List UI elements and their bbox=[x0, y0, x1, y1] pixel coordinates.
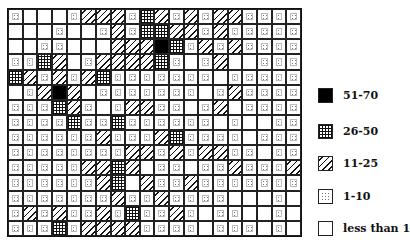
grid-cell bbox=[169, 221, 184, 236]
grid-cell bbox=[8, 175, 23, 190]
grid-cell bbox=[169, 39, 184, 54]
grid-cell bbox=[213, 221, 228, 236]
grid-cell bbox=[8, 39, 23, 54]
grid-cell bbox=[111, 39, 126, 54]
grid-cell bbox=[96, 115, 111, 130]
grid-cell bbox=[228, 9, 243, 24]
grid-cell bbox=[228, 160, 243, 175]
grid-cell bbox=[37, 85, 52, 100]
grid-cell bbox=[242, 85, 257, 100]
grid-cell bbox=[8, 145, 23, 160]
grid-cell bbox=[242, 160, 257, 175]
grid-cell bbox=[37, 39, 52, 54]
grid-cell bbox=[272, 145, 287, 160]
grid-cell bbox=[154, 85, 169, 100]
grid-cell bbox=[154, 9, 169, 24]
grid-cell bbox=[111, 160, 126, 175]
grid-cell bbox=[154, 191, 169, 206]
grid-cell bbox=[52, 175, 67, 190]
grid-cell bbox=[154, 39, 169, 54]
grid-cell bbox=[154, 54, 169, 69]
grid-cell bbox=[81, 70, 96, 85]
grid-cell bbox=[228, 175, 243, 190]
grid-cell bbox=[184, 191, 199, 206]
grid-cell bbox=[81, 24, 96, 39]
grid-cell bbox=[140, 70, 155, 85]
grid-cell bbox=[8, 130, 23, 145]
grid-cell bbox=[272, 100, 287, 115]
grid-cell bbox=[169, 191, 184, 206]
grid-cell bbox=[242, 24, 257, 39]
grid-cell bbox=[198, 24, 213, 39]
grid-cell bbox=[257, 191, 272, 206]
grid-cell bbox=[272, 206, 287, 221]
grid-cell bbox=[198, 206, 213, 221]
grid-cell bbox=[213, 70, 228, 85]
grid-cell bbox=[23, 221, 38, 236]
grid-cell bbox=[125, 160, 140, 175]
grid-cell bbox=[67, 130, 82, 145]
grid-cell bbox=[23, 9, 38, 24]
grid-cell bbox=[242, 54, 257, 69]
grid-cell bbox=[272, 115, 287, 130]
grid-cell bbox=[52, 115, 67, 130]
grid-cell bbox=[257, 70, 272, 85]
grid-cell bbox=[140, 206, 155, 221]
grid-cell bbox=[286, 24, 301, 39]
grid-cell bbox=[96, 70, 111, 85]
grid-cell bbox=[169, 9, 184, 24]
grid-cell bbox=[213, 145, 228, 160]
grid-cell bbox=[140, 24, 155, 39]
grid-cell bbox=[8, 221, 23, 236]
grid-cell bbox=[52, 130, 67, 145]
grid-cell bbox=[198, 70, 213, 85]
grid-cell bbox=[23, 191, 38, 206]
crosshatch-swatch-icon bbox=[318, 124, 333, 139]
grid-cell bbox=[81, 115, 96, 130]
legend-label: less than 1 bbox=[343, 222, 410, 235]
grid-cell bbox=[272, 54, 287, 69]
grid-cell bbox=[257, 175, 272, 190]
grid-cell bbox=[37, 54, 52, 69]
grid-cell bbox=[286, 39, 301, 54]
grid-cell bbox=[111, 70, 126, 85]
grid-cell bbox=[286, 115, 301, 130]
grid-cell bbox=[96, 100, 111, 115]
grid-cell bbox=[286, 160, 301, 175]
grid-cell bbox=[111, 191, 126, 206]
grid-cell bbox=[37, 100, 52, 115]
grid-cell bbox=[67, 145, 82, 160]
grid-cell bbox=[8, 160, 23, 175]
grid-cell bbox=[272, 175, 287, 190]
grid-cell bbox=[23, 145, 38, 160]
grid-cell bbox=[169, 206, 184, 221]
grid-cell bbox=[111, 206, 126, 221]
grid-cell bbox=[154, 130, 169, 145]
grid-cell bbox=[96, 221, 111, 236]
grid-cell bbox=[154, 115, 169, 130]
grid-cell bbox=[125, 145, 140, 160]
grid-cell bbox=[96, 206, 111, 221]
grid-cell bbox=[272, 24, 287, 39]
grid-cell bbox=[23, 206, 38, 221]
grid-cell bbox=[198, 191, 213, 206]
grid-cell bbox=[198, 85, 213, 100]
solid-black-swatch-icon bbox=[318, 88, 333, 103]
grid-cell bbox=[140, 85, 155, 100]
grid-cell bbox=[37, 130, 52, 145]
grid-cell bbox=[154, 221, 169, 236]
grid-cell bbox=[140, 221, 155, 236]
grid-cell bbox=[228, 100, 243, 115]
dotted-swatch-icon bbox=[318, 189, 333, 204]
grid-cell bbox=[169, 70, 184, 85]
grid-cell bbox=[184, 54, 199, 69]
grid-cell bbox=[257, 206, 272, 221]
grid-cell bbox=[67, 9, 82, 24]
grid-cell bbox=[125, 70, 140, 85]
grid-cell bbox=[67, 221, 82, 236]
grid-cell bbox=[140, 115, 155, 130]
legend-item-51-70: 51-70 bbox=[318, 88, 378, 103]
grid-cell bbox=[257, 85, 272, 100]
legend: 51-70 26-50 11-25 1-10 less than 1 bbox=[318, 0, 400, 245]
grid-cell bbox=[52, 70, 67, 85]
